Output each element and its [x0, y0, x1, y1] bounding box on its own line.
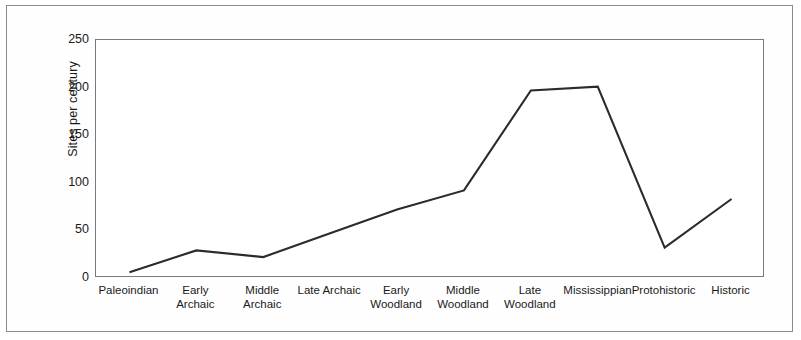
y-tick-label: 250: [55, 33, 89, 45]
x-tick-label: Late Archaic: [296, 284, 363, 298]
x-tick-label: Historic: [697, 284, 764, 298]
y-tick-label: 150: [55, 128, 89, 140]
figure-border: Sites per century 250200150100500 Paleoi…: [6, 5, 793, 332]
line-chart-svg: [96, 40, 765, 278]
y-tick-label: 100: [55, 176, 89, 188]
y-tick-label: 50: [55, 223, 89, 235]
x-tick-label: Early Archaic: [162, 284, 229, 311]
x-axis-tick-labels: PaleoindianEarly ArchaicMiddle ArchaicLa…: [95, 284, 764, 330]
x-tick-label: Middle Woodland: [430, 284, 497, 311]
x-tick-label: Mississippian: [563, 284, 630, 298]
x-tick-label: Paleoindian: [95, 284, 162, 298]
y-axis-tick-labels: 250200150100500: [51, 6, 89, 340]
x-tick-label: Protohistoric: [630, 284, 697, 298]
x-tick-label: Middle Archaic: [229, 284, 296, 311]
data-series-line: [129, 87, 731, 273]
y-tick-label: 0: [55, 271, 89, 283]
plot-area: [95, 39, 764, 277]
x-tick-label: Early Woodland: [363, 284, 430, 311]
y-tick-label: 200: [55, 81, 89, 93]
x-tick-label: Late Woodland: [496, 284, 563, 311]
